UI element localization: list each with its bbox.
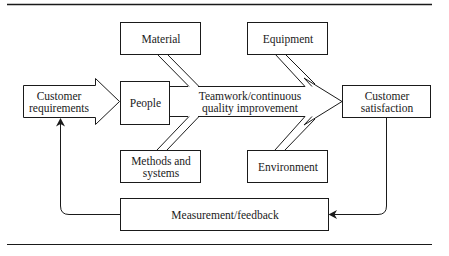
material-label: Material bbox=[121, 23, 201, 54]
teamwork-label: Teamwork/continuous quality improvement bbox=[190, 87, 310, 116]
methods-systems-label: Methods and systems bbox=[121, 151, 201, 182]
material-feeder-line bbox=[167, 54, 199, 87]
feedback-line-left bbox=[61, 124, 121, 215]
feedback-line-right bbox=[334, 118, 387, 215]
customer-satisfaction-label: Customer satisfaction bbox=[343, 86, 431, 117]
equipment-label: Equipment bbox=[248, 23, 328, 54]
methods-feeder-line bbox=[167, 117, 199, 151]
environment-label: Environment bbox=[248, 151, 328, 182]
customer-requirements-label: Customer requirements bbox=[23, 86, 95, 117]
measurement-feedback-label: Measurement/feedback bbox=[121, 199, 329, 230]
people-label: People bbox=[121, 82, 170, 124]
